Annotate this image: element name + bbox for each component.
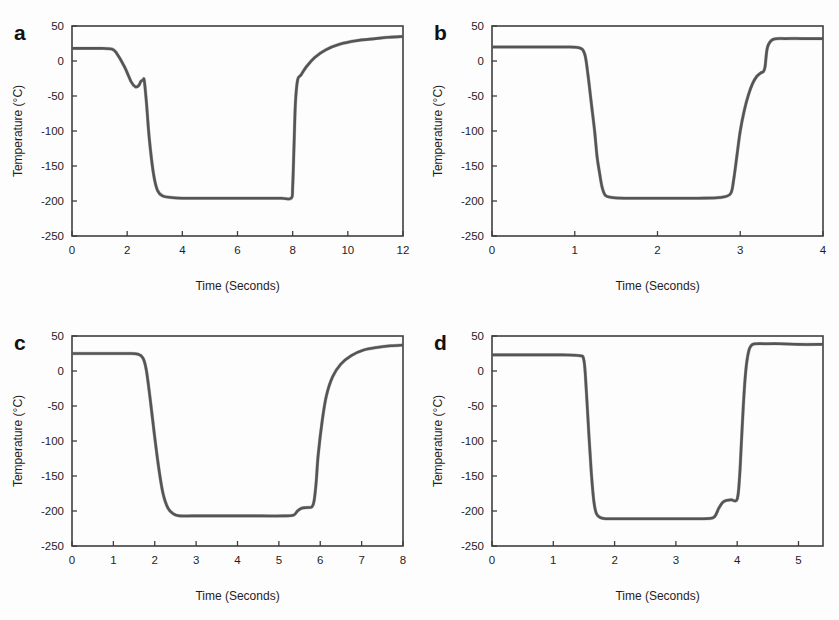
y-tick-label: -250 bbox=[41, 230, 64, 242]
y-tick-label: -150 bbox=[461, 160, 484, 172]
x-tick-label: 7 bbox=[358, 554, 364, 566]
x-tick-label: 8 bbox=[400, 554, 406, 566]
x-axis-title: Time (Seconds) bbox=[195, 589, 279, 603]
y-tick-label: -50 bbox=[467, 90, 484, 102]
y-tick-label: 50 bbox=[51, 330, 64, 342]
x-tick-label: 3 bbox=[673, 554, 679, 566]
x-tick-label: 1 bbox=[572, 244, 578, 256]
chart-svg-a: a500-50-100-150-200-250024681012Time (Se… bbox=[0, 0, 419, 310]
y-tick-label: 0 bbox=[478, 55, 484, 67]
panel-letter-d: d bbox=[434, 331, 447, 354]
data-trace-c bbox=[72, 345, 403, 516]
x-tick-label: 0 bbox=[489, 244, 495, 256]
y-tick-label: -100 bbox=[41, 125, 64, 137]
y-tick-label: -150 bbox=[41, 160, 64, 172]
chart-svg-d: d500-50-100-150-200-250012345Time (Secon… bbox=[420, 310, 839, 620]
x-tick-label: 12 bbox=[397, 244, 410, 256]
y-tick-label: -200 bbox=[461, 195, 484, 207]
data-trace-b bbox=[492, 38, 823, 198]
y-tick-label: 0 bbox=[478, 365, 484, 377]
y-tick-label: -200 bbox=[41, 195, 64, 207]
figure-container: a500-50-100-150-200-250024681012Time (Se… bbox=[0, 0, 839, 620]
x-tick-label: 1 bbox=[110, 554, 116, 566]
y-axis-title: Temperature (°C) bbox=[11, 395, 25, 487]
y-tick-label: 50 bbox=[51, 20, 64, 32]
y-tick-label: -250 bbox=[41, 540, 64, 552]
chart-panel-d: d500-50-100-150-200-250012345Time (Secon… bbox=[420, 310, 839, 620]
trace-group-b bbox=[492, 38, 823, 198]
y-tick-label: -200 bbox=[461, 505, 484, 517]
chart-panel-c: c500-50-100-150-200-250012345678Time (Se… bbox=[0, 310, 419, 620]
trace-group-c bbox=[72, 345, 403, 516]
y-tick-label: -50 bbox=[47, 90, 64, 102]
plot-frame bbox=[492, 26, 823, 236]
y-tick-label: 50 bbox=[471, 20, 484, 32]
y-axis-title: Temperature (°C) bbox=[11, 85, 25, 177]
chart-panel-b: b500-50-100-150-200-25001234Time (Second… bbox=[420, 0, 839, 310]
x-tick-label: 0 bbox=[489, 554, 495, 566]
y-tick-label: -100 bbox=[461, 435, 484, 447]
plot-frame bbox=[72, 26, 403, 236]
panel-letter-a: a bbox=[14, 21, 26, 44]
y-tick-label: -100 bbox=[41, 435, 64, 447]
y-tick-label: -250 bbox=[461, 540, 484, 552]
data-trace-halo-d bbox=[492, 344, 823, 519]
data-trace-halo-c bbox=[72, 345, 403, 516]
x-tick-label: 8 bbox=[289, 244, 295, 256]
y-tick-label: -50 bbox=[467, 400, 484, 412]
y-tick-label: -150 bbox=[461, 470, 484, 482]
x-tick-label: 4 bbox=[234, 554, 241, 566]
y-tick-label: 0 bbox=[58, 365, 64, 377]
x-tick-label: 0 bbox=[69, 554, 75, 566]
x-tick-label: 0 bbox=[69, 244, 75, 256]
x-tick-label: 1 bbox=[550, 554, 556, 566]
x-tick-label: 6 bbox=[234, 244, 240, 256]
data-trace-a bbox=[72, 37, 403, 200]
y-tick-label: -150 bbox=[41, 470, 64, 482]
x-tick-label: 3 bbox=[193, 554, 199, 566]
y-tick-label: -50 bbox=[47, 400, 64, 412]
panel-letter-c: c bbox=[14, 331, 26, 354]
y-axis-title: Temperature (°C) bbox=[431, 395, 445, 487]
x-axis-title: Time (Seconds) bbox=[615, 279, 699, 293]
trace-group-d bbox=[492, 344, 823, 519]
x-tick-label: 5 bbox=[795, 554, 801, 566]
plot-frame bbox=[492, 336, 823, 546]
chart-panel-a: a500-50-100-150-200-250024681012Time (Se… bbox=[0, 0, 419, 310]
y-tick-label: 0 bbox=[58, 55, 64, 67]
x-tick-label: 4 bbox=[734, 554, 741, 566]
chart-svg-c: c500-50-100-150-200-250012345678Time (Se… bbox=[0, 310, 419, 620]
data-trace-halo-b bbox=[492, 38, 823, 198]
x-tick-label: 4 bbox=[820, 244, 827, 256]
x-tick-label: 10 bbox=[341, 244, 354, 256]
x-tick-label: 2 bbox=[654, 244, 660, 256]
y-tick-label: -250 bbox=[461, 230, 484, 242]
chart-svg-b: b500-50-100-150-200-25001234Time (Second… bbox=[420, 0, 839, 310]
y-tick-label: 50 bbox=[471, 330, 484, 342]
x-tick-label: 4 bbox=[179, 244, 186, 256]
data-trace-d bbox=[492, 344, 823, 519]
x-tick-label: 2 bbox=[152, 554, 158, 566]
x-tick-label: 2 bbox=[611, 554, 617, 566]
y-tick-label: -200 bbox=[41, 505, 64, 517]
x-axis-title: Time (Seconds) bbox=[615, 589, 699, 603]
y-tick-label: -100 bbox=[461, 125, 484, 137]
x-tick-label: 5 bbox=[276, 554, 282, 566]
x-tick-label: 3 bbox=[737, 244, 743, 256]
x-tick-label: 6 bbox=[317, 554, 323, 566]
panel-letter-b: b bbox=[434, 21, 447, 44]
x-axis-title: Time (Seconds) bbox=[195, 279, 279, 293]
trace-group-a bbox=[72, 37, 403, 200]
y-axis-title: Temperature (°C) bbox=[431, 85, 445, 177]
x-tick-label: 2 bbox=[124, 244, 130, 256]
